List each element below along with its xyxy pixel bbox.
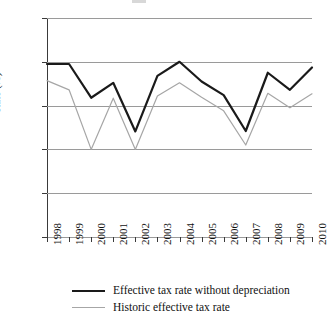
x-tick-2006 [224, 237, 225, 242]
x-tick-label-2005: 2005 [207, 223, 218, 245]
x-tick-label-2004: 2004 [185, 223, 196, 245]
x-tick-label-2006: 2006 [229, 223, 240, 245]
x-tick-label-1999: 1999 [74, 223, 85, 245]
x-tick-1998 [47, 237, 48, 242]
legend-label-secondary: Historic effective tax rate [113, 301, 230, 314]
legend-line-secondary-icon [72, 307, 105, 308]
series-layer [47, 18, 312, 237]
x-tick-2005 [202, 237, 203, 242]
scan-artifact [132, 0, 146, 3]
x-tick-label-2007: 2007 [251, 223, 262, 245]
legend-line-primary-icon [72, 290, 105, 292]
plot-area [47, 18, 312, 237]
x-tick-label-2009: 2009 [295, 223, 306, 245]
chart-legend: Effective tax rate without depreciation … [72, 282, 327, 316]
legend-item-primary: Effective tax rate without depreciation [72, 282, 327, 299]
x-tick-2001 [113, 237, 114, 242]
x-tick-label-2008: 2008 [273, 223, 284, 245]
x-tick-2009 [290, 237, 291, 242]
x-tick-2004 [180, 237, 181, 242]
x-tick-2002 [135, 237, 136, 242]
x-tick-2008 [268, 237, 269, 242]
x-tick-label-1998: 1998 [52, 223, 63, 245]
x-tick-label-2002: 2002 [140, 223, 151, 245]
y-axis-title: Rate (%) [0, 73, 2, 112]
x-tick-2000 [91, 237, 92, 242]
x-tick-2010 [312, 237, 313, 242]
x-tick-2003 [157, 237, 158, 242]
x-tick-label-2001: 2001 [118, 223, 129, 245]
legend-item-secondary: Historic effective tax rate [72, 299, 327, 316]
x-tick-1999 [69, 237, 70, 242]
legend-label-primary: Effective tax rate without depreciation [113, 284, 290, 297]
x-tick-label-2003: 2003 [162, 223, 173, 245]
x-tick-label-2000: 2000 [96, 223, 107, 245]
chart-figure: Rate (%) 303132333435 199819992000200120… [0, 0, 327, 319]
x-tick-2007 [246, 237, 247, 242]
x-tick-label-2010: 2010 [317, 223, 327, 245]
